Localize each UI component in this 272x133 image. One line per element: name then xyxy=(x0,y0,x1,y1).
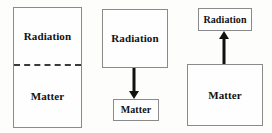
radiation-source-box: Radiation xyxy=(102,9,168,68)
arrow-up-shaft xyxy=(223,38,226,64)
coupled-radiation-half: Radiation xyxy=(14,8,81,64)
arrow-up-icon xyxy=(214,31,234,64)
matter-target-label: Matter xyxy=(121,105,152,115)
radiation-target-box: Radiation xyxy=(198,8,252,31)
coupled-matter-half: Matter xyxy=(14,65,81,127)
matter-target-box: Matter xyxy=(113,99,159,121)
coupled-radiation-label: Radiation xyxy=(24,31,71,42)
coupled-matter-label: Matter xyxy=(31,91,65,102)
arrow-down-icon xyxy=(124,68,144,99)
radiation-matter-diagram: Radiation Matter Radiation Matter Radiat… xyxy=(0,0,272,133)
matter-source-label: Matter xyxy=(208,90,242,101)
coupled-region-box: Radiation Matter xyxy=(13,7,82,128)
matter-source-box: Matter xyxy=(187,64,263,126)
radiation-target-label: Radiation xyxy=(203,15,246,25)
arrow-down-head xyxy=(129,91,139,99)
arrow-down-shaft xyxy=(133,68,136,93)
radiation-source-label: Radiation xyxy=(111,33,158,44)
arrow-up-head xyxy=(219,31,229,39)
